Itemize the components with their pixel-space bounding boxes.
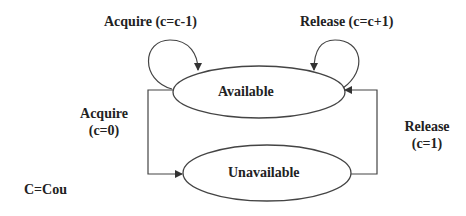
- note-label: C=Cou: [24, 181, 67, 198]
- transition-label-acquire: Acquire (c=0): [74, 105, 134, 139]
- transition-acquire-arrow: [148, 90, 182, 174]
- state-diagram: [0, 0, 466, 216]
- transition-label-acquire-self: Acquire (c=c-1): [104, 13, 197, 30]
- state-label-available: Available: [218, 83, 274, 100]
- transition-label-release-line2: (c=1): [397, 135, 457, 152]
- transition-label-release-line1: Release: [397, 118, 457, 135]
- state-label-unavailable: Unavailable: [228, 164, 300, 181]
- transition-release-arrow: [345, 90, 377, 174]
- transition-label-release: Release (c=1): [397, 118, 457, 152]
- transition-label-acquire-line1: Acquire: [74, 105, 134, 122]
- transition-label-acquire-line2: (c=0): [74, 122, 134, 139]
- transition-label-release-self: Release (c=c+1): [300, 13, 393, 30]
- self-loop-acquire-arrow: [149, 40, 199, 89]
